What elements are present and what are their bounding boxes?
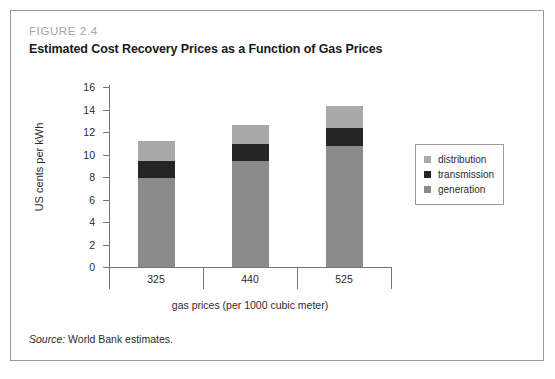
x-axis-divider <box>391 267 392 289</box>
legend-swatch-generation <box>424 186 431 193</box>
x-axis-title: gas prices (per 1000 cubic meter) <box>109 299 391 311</box>
y-axis-tick-label: 16 <box>69 82 95 92</box>
y-axis-tick-label: 6 <box>69 195 95 205</box>
y-axis-tick-label: 10 <box>69 150 95 160</box>
bar-group <box>232 87 269 267</box>
legend-label: distribution <box>438 154 486 165</box>
y-axis-tick-label-wrap: 0 <box>65 262 95 272</box>
legend-item-generation: generation <box>424 182 494 197</box>
y-axis-tick <box>103 132 109 133</box>
legend-item-transmission: transmission <box>424 167 494 182</box>
y-axis-tick <box>103 222 109 223</box>
figure-container: FIGURE 2.4 Estimated Cost Recovery Price… <box>10 10 544 361</box>
legend-swatch-distribution <box>424 156 431 163</box>
bar-segment-distribution <box>138 141 175 161</box>
y-axis-tick <box>103 110 109 111</box>
y-axis-tick-label-wrap: 2 <box>65 240 95 250</box>
y-axis-line <box>109 85 110 279</box>
source-label: Source: <box>29 333 65 345</box>
y-axis-title: US cents per kWh <box>33 97 45 237</box>
y-axis-tick-label: 2 <box>69 240 95 250</box>
x-axis-tick-label: 440 <box>203 273 297 285</box>
y-axis-tick-label: 0 <box>69 262 95 272</box>
y-axis-tick <box>103 155 109 156</box>
y-axis-tick-label-wrap: 4 <box>65 217 95 227</box>
y-axis-tick-label-wrap: 8 <box>65 172 95 182</box>
legend-label: generation <box>438 184 485 195</box>
y-axis-tick-label-wrap: 10 <box>65 150 95 160</box>
legend-item-distribution: distribution <box>424 152 494 167</box>
y-axis-tick <box>103 177 109 178</box>
y-axis-tick-label-wrap: 6 <box>65 195 95 205</box>
bar-segment-generation <box>326 146 363 268</box>
source-note: Source: World Bank estimates. <box>29 333 173 345</box>
bar-segment-generation <box>232 161 269 267</box>
legend-label: transmission <box>438 169 494 180</box>
y-axis-tick-label-wrap: 14 <box>65 105 95 115</box>
y-axis-tick-label: 14 <box>69 105 95 115</box>
legend-swatch-transmission <box>424 171 431 178</box>
y-axis-tick <box>103 245 109 246</box>
bar-group <box>138 87 175 267</box>
chart-legend: distributiontransmissiongeneration <box>415 144 504 205</box>
y-axis-tick <box>103 200 109 201</box>
y-axis-tick-label: 12 <box>69 127 95 137</box>
x-axis-tick-label: 525 <box>297 273 391 285</box>
y-axis-tick-label-wrap: 16 <box>65 82 95 92</box>
x-axis-tick-label: 325 <box>109 273 203 285</box>
bar-group <box>326 87 363 267</box>
bar-segment-transmission <box>326 128 363 146</box>
x-axis-line <box>109 267 391 268</box>
bar-segment-generation <box>138 178 175 267</box>
y-axis-tick-label-wrap: 12 <box>65 127 95 137</box>
y-axis-tick <box>103 87 109 88</box>
source-text: World Bank estimates. <box>68 333 173 345</box>
bar-segment-distribution <box>232 125 269 144</box>
y-axis-tick-label: 4 <box>69 217 95 227</box>
bar-segment-transmission <box>232 144 269 161</box>
bar-segment-distribution <box>326 106 363 127</box>
bar-segment-transmission <box>138 161 175 178</box>
y-axis-tick-label: 8 <box>69 172 95 182</box>
